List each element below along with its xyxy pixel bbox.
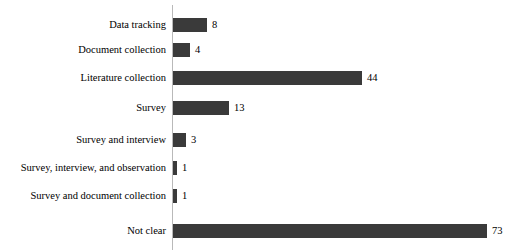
category-label: Literature collection [0, 71, 166, 85]
category-label: Data tracking [0, 18, 166, 32]
bar-row: Not clear73 [0, 224, 518, 238]
bar [173, 18, 207, 32]
bar-row: Survey and interview3 [0, 133, 518, 147]
category-label: Document collection [0, 43, 166, 57]
bar-value-label: 3 [191, 133, 196, 147]
bar-row: Document collection4 [0, 43, 518, 57]
category-label: Not clear [0, 224, 166, 238]
bar [173, 71, 362, 85]
bar [173, 43, 190, 57]
bar-value-label: 73 [492, 224, 503, 238]
bar [173, 101, 229, 115]
category-label: Survey and interview [0, 133, 166, 147]
bar-value-label: 4 [195, 43, 200, 57]
bar-value-label: 1 [182, 161, 187, 175]
bar [173, 224, 487, 238]
bar-row: Survey13 [0, 101, 518, 115]
bar [173, 133, 186, 147]
bar-row: Data tracking8 [0, 18, 518, 32]
bar-row: Survey and document collection1 [0, 189, 518, 203]
bar-value-label: 13 [234, 101, 245, 115]
bar [173, 161, 177, 175]
bar-value-label: 44 [367, 71, 378, 85]
category-label: Survey [0, 101, 166, 115]
category-label: Survey and document collection [0, 189, 166, 203]
bar-row: Survey, interview, and observation1 [0, 161, 518, 175]
category-axis-line [172, 5, 173, 250]
bar-value-label: 1 [182, 189, 187, 203]
bar-value-label: 8 [212, 18, 217, 32]
bar-row: Literature collection44 [0, 71, 518, 85]
category-label: Survey, interview, and observation [0, 161, 166, 175]
horizontal-bar-chart: Data tracking8Document collection4Litera… [0, 0, 518, 252]
bar [173, 189, 177, 203]
